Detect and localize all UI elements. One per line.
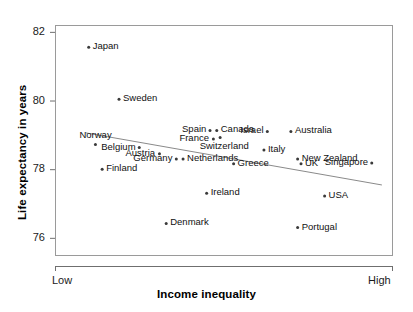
point-label-germany: Germany bbox=[133, 153, 172, 163]
data-point-portugal bbox=[296, 226, 299, 229]
point-label-australia: Australia bbox=[295, 125, 332, 135]
data-point-ireland bbox=[205, 192, 208, 195]
y-tick-label-80: 80 bbox=[19, 95, 45, 106]
point-label-greece: Greece bbox=[238, 158, 269, 168]
data-point-japan bbox=[87, 46, 90, 49]
data-point-singapore bbox=[370, 162, 373, 165]
data-point-sweden bbox=[118, 98, 121, 101]
x-tick-label-high: High bbox=[368, 275, 391, 286]
point-label-israel: Israel bbox=[240, 125, 263, 135]
point-label-uk: UK bbox=[305, 158, 318, 168]
y-tick-label-76: 76 bbox=[19, 232, 45, 243]
point-label-netherlands: Netherlands bbox=[187, 153, 238, 163]
data-point-italy bbox=[262, 148, 265, 151]
point-label-usa: USA bbox=[329, 190, 349, 200]
point-label-switzerland: Switzerland bbox=[200, 141, 249, 151]
data-point-usa bbox=[323, 194, 326, 197]
point-label-ireland: Ireland bbox=[211, 187, 240, 197]
point-label-singapore: Singapore bbox=[325, 157, 368, 167]
point-label-sweden: Sweden bbox=[123, 93, 157, 103]
data-point-netherlands bbox=[182, 157, 185, 160]
data-point-finland bbox=[101, 168, 104, 171]
data-point-germany bbox=[175, 157, 178, 160]
y-tick-label-82: 82 bbox=[19, 26, 45, 37]
point-label-denmark: Denmark bbox=[170, 217, 209, 227]
data-point-norway bbox=[94, 143, 97, 146]
data-point-canada bbox=[215, 129, 218, 132]
data-point-denmark bbox=[165, 222, 168, 225]
point-label-portugal: Portugal bbox=[302, 222, 337, 232]
data-point-spain bbox=[209, 129, 212, 132]
data-point-switzerland bbox=[219, 136, 222, 139]
data-point-israel bbox=[266, 130, 269, 133]
point-label-norway: Norway bbox=[79, 130, 111, 140]
point-label-japan: Japan bbox=[93, 41, 119, 51]
data-point-new-zealand bbox=[296, 157, 299, 160]
point-label-italy: Italy bbox=[268, 144, 285, 154]
y-tick-label-78: 78 bbox=[19, 163, 45, 174]
point-label-finland: Finland bbox=[106, 163, 137, 173]
x-tick-label-low: Low bbox=[52, 275, 72, 286]
x-axis-title: Income inequality bbox=[0, 288, 413, 300]
scatter-chart: JapanSwedenNorwayBelgiumAustriaGermanyNe… bbox=[0, 0, 413, 312]
data-point-australia bbox=[289, 130, 292, 133]
